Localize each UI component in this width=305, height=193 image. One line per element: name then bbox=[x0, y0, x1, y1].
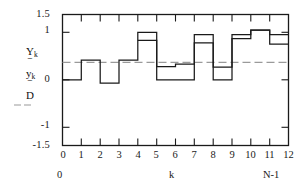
y-ticks-right bbox=[282, 32, 289, 127]
x-tick-label-4: 4 bbox=[134, 150, 142, 161]
plot-canvas bbox=[0, 0, 305, 193]
series-Yk-step bbox=[63, 30, 289, 83]
x-tick-label-6: 6 bbox=[171, 150, 179, 161]
x-ticks-top bbox=[81, 15, 269, 22]
x-tick-label-12: 12 bbox=[282, 150, 295, 161]
x-ticks-bottom bbox=[81, 139, 269, 146]
x-tick-label-3: 3 bbox=[115, 150, 123, 161]
x-axis-caption-center: k bbox=[169, 170, 174, 181]
x-tick-label-5: 5 bbox=[152, 150, 160, 161]
x-axis-caption-left: 0 bbox=[57, 170, 62, 181]
figure-plot-signal: 1.5 1 0 -1 -1.5 Yk ⁻ yk ⁻ D bbox=[0, 0, 305, 193]
x-tick-label-8: 8 bbox=[209, 150, 217, 161]
x-tick-label-11: 11 bbox=[263, 150, 276, 161]
x-tick-label-10: 10 bbox=[244, 150, 257, 161]
x-tick-label-1: 1 bbox=[77, 150, 85, 161]
x-tick-label-9: 9 bbox=[228, 150, 236, 161]
x-tick-label-7: 7 bbox=[190, 150, 198, 161]
x-tick-label-2: 2 bbox=[96, 150, 104, 161]
x-tick-label-0: 0 bbox=[59, 150, 67, 161]
x-axis-caption-right: N-1 bbox=[263, 170, 279, 181]
